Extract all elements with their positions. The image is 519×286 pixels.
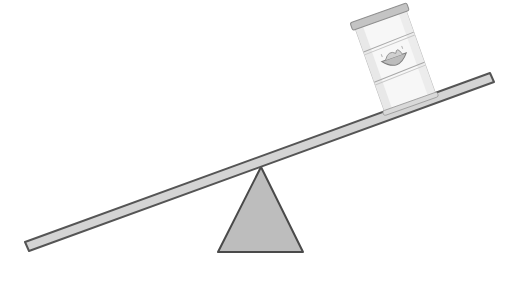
seesaw-illustration	[0, 0, 519, 286]
food-can	[350, 3, 440, 116]
fulcrum-triangle	[218, 167, 303, 252]
